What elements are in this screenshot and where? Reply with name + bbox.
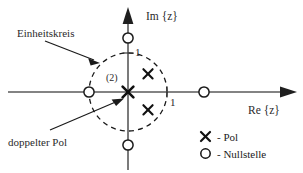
leader-arrow-double-pole (50, 99, 124, 131)
zero-marker (84, 87, 94, 97)
real-unit-tick-label: 1 (170, 97, 176, 108)
legend-item-pole: - Pol (199, 130, 238, 143)
figure-canvas: Im {z} Re {z} 1 1 (2) Einheitskreis dopp… (0, 0, 303, 173)
real-axis (8, 87, 297, 98)
cross-icon (199, 130, 212, 143)
zero-marker (123, 33, 133, 43)
pole-marker (143, 69, 152, 78)
pole-multiplicity-label: (2) (106, 73, 118, 83)
legend-item-zero: - Nullstelle (199, 147, 266, 160)
circle-icon (199, 147, 212, 160)
real-axis-label: Re {z} (248, 105, 280, 117)
zero-marker (123, 140, 133, 150)
zero-marker (199, 87, 209, 97)
unit-circle-annotation: Einheitskreis (17, 28, 74, 39)
leader-arrow-unit-circle (45, 41, 100, 65)
imaginary-unit-tick-label: 1 (135, 47, 141, 58)
pole-marker (143, 105, 152, 114)
legend-label-pole: - Pol (217, 131, 238, 143)
legend-label-zero: - Nullstelle (217, 148, 266, 160)
double-pole-annotation: doppelter Pol (8, 137, 67, 148)
imaginary-axis-label: Im {z} (146, 11, 178, 23)
